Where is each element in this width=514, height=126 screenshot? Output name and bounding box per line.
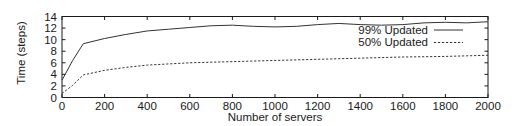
legend-label-2: 50% Updated bbox=[358, 36, 428, 48]
y-tick-label: 14 bbox=[44, 11, 57, 23]
y-tick-label: 6 bbox=[51, 57, 57, 69]
x-tick-label: 200 bbox=[95, 100, 114, 112]
chart-legend: 99% Updated50% Updated bbox=[358, 24, 463, 49]
y-tick-label: 8 bbox=[51, 45, 57, 57]
y-tick-label: 12 bbox=[44, 22, 57, 34]
series-line-2 bbox=[62, 55, 488, 93]
y-tick-label: 2 bbox=[51, 80, 57, 92]
x-tick-label: 1400 bbox=[347, 100, 373, 112]
plot-area: 0200400600800100012001400160018002000024… bbox=[0, 0, 514, 126]
y-tick-label: 4 bbox=[51, 68, 58, 80]
x-tick-label: 1200 bbox=[305, 100, 331, 112]
x-tick-label: 800 bbox=[223, 100, 242, 112]
y-tick-label: 0 bbox=[51, 92, 57, 104]
axis-tick-labels: 0200400600800100012001400160018002000024… bbox=[44, 11, 501, 113]
x-tick-label: 1800 bbox=[433, 100, 459, 112]
x-tick-label: 1000 bbox=[262, 100, 288, 112]
x-tick-label: 400 bbox=[138, 100, 157, 112]
legend-label-1: 99% Updated bbox=[358, 24, 428, 36]
x-tick-label: 1600 bbox=[390, 100, 416, 112]
x-tick-label: 0 bbox=[59, 100, 65, 112]
chart-figure: Time (steps) Number of servers 020040060… bbox=[0, 0, 514, 126]
x-tick-label: 2000 bbox=[475, 100, 501, 112]
x-tick-label: 600 bbox=[180, 100, 199, 112]
y-tick-label: 10 bbox=[44, 34, 57, 46]
